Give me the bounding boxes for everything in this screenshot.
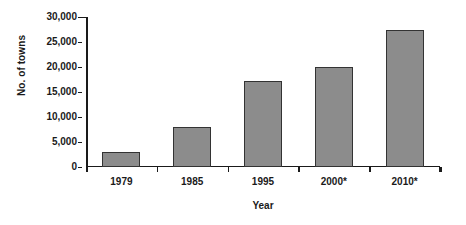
y-tick-mark xyxy=(78,42,82,43)
bar-cell xyxy=(298,17,369,167)
bar-cell xyxy=(157,17,228,167)
bar-1995 xyxy=(244,81,282,167)
bar-series xyxy=(86,17,440,167)
y-tick-label: 30,000 xyxy=(46,12,77,22)
y-axis-tick-labels: 05,00010,00015,00020,00025,00030,000 xyxy=(36,0,82,225)
y-axis-title: No. of towns xyxy=(16,26,27,106)
y-tick-mark xyxy=(78,92,82,93)
y-tick-label: 5,000 xyxy=(52,137,77,147)
y-tick-mark xyxy=(78,117,82,118)
x-axis-tick-marks xyxy=(86,167,440,172)
x-tick-label: 1995 xyxy=(228,176,299,187)
x-tick-mark xyxy=(298,167,300,172)
bar-2000-est xyxy=(315,67,353,167)
bar-2010-est xyxy=(386,30,424,168)
bar-cell xyxy=(86,17,157,167)
bar-cell xyxy=(369,17,440,167)
bar-cell xyxy=(228,17,299,167)
y-tick-mark xyxy=(78,167,82,168)
y-tick-label: 20,000 xyxy=(46,62,77,72)
bar-1979 xyxy=(102,152,140,167)
x-tick-mark xyxy=(86,167,88,172)
x-axis-title: Year xyxy=(86,200,440,211)
x-tick-label: 1979 xyxy=(86,176,157,187)
y-tick-label: 25,000 xyxy=(46,37,77,47)
x-tick-label: 2010* xyxy=(369,176,440,187)
y-tick-mark xyxy=(78,67,82,68)
bar-1985 xyxy=(173,127,211,167)
x-tick-mark xyxy=(440,167,442,172)
y-tick-label: 15,000 xyxy=(46,87,77,97)
bar-chart: No. of towns 05,00010,00015,00020,00025,… xyxy=(0,0,466,225)
x-tick-mark xyxy=(228,167,230,172)
x-tick-label: 1985 xyxy=(157,176,228,187)
x-tick-mark xyxy=(369,167,371,172)
y-tick-label: 10,000 xyxy=(46,112,77,122)
x-tick-label: 2000* xyxy=(298,176,369,187)
x-axis-tick-labels: 1979198519952000*2010* xyxy=(86,176,440,187)
y-tick-mark xyxy=(78,142,82,143)
x-tick-mark xyxy=(157,167,159,172)
plot-area xyxy=(86,17,440,167)
y-tick-label: 0 xyxy=(71,162,77,172)
